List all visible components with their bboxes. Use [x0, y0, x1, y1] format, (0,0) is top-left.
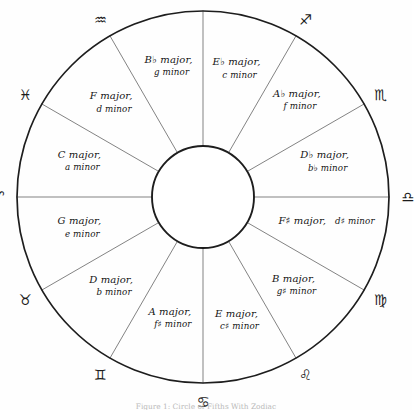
figure-caption: Figure 1: Circle of Fifths With Zodiac [0, 401, 412, 410]
spoke-line [42, 223, 159, 291]
spoke-line [110, 36, 178, 153]
spoke-line [42, 104, 159, 172]
spoke-line [247, 104, 364, 172]
spoke-line [110, 241, 178, 358]
spoke-line [229, 36, 297, 153]
spoke-line [247, 223, 364, 291]
spoke-line [229, 241, 297, 358]
inner-circle [152, 146, 254, 248]
